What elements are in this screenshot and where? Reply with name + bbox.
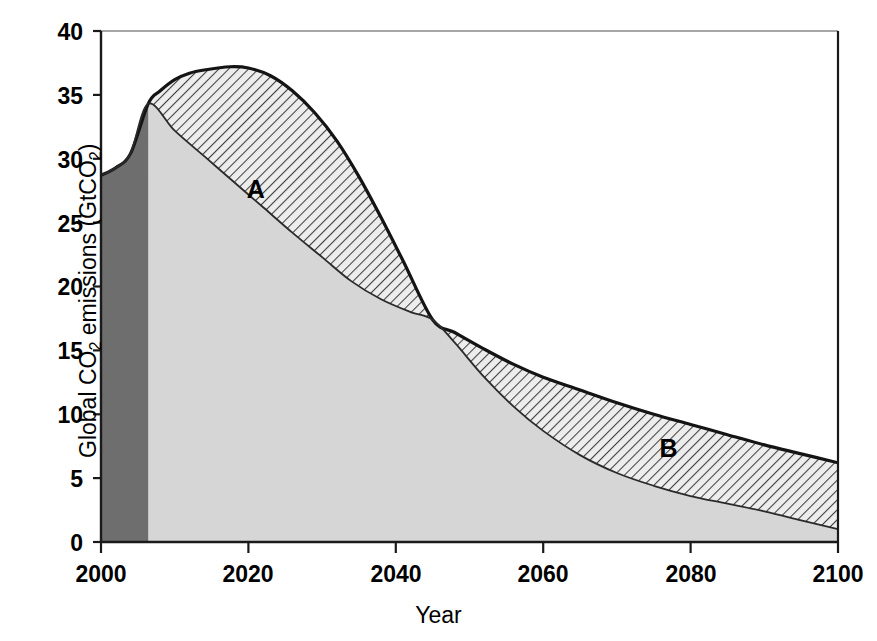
x-tick-label-2080: 2080 [656,561,726,588]
y-axis-title-sub-2: 2 [86,151,104,160]
y-axis-title: Global CO2 emissions (GtCO2) [75,91,105,511]
x-tick-label-2020: 2020 [213,561,283,588]
y-axis-title-pre: Global CO [75,351,101,458]
chart-figure: 40 35 30 25 20 15 10 5 0 2000 2020 2040 … [0,0,877,641]
x-tick-label-2100: 2100 [803,561,873,588]
x-axis-title: Year [0,602,877,629]
y-axis-title-mid: emissions (GtCO [75,160,101,341]
x-tick-label-2040: 2040 [361,561,431,588]
y-axis-title-sub-1: 2 [86,342,104,351]
x-axis-ticks [101,542,838,553]
region-label-b: B [659,434,677,463]
region-label-a: A [247,175,265,204]
x-tick-label-2060: 2060 [508,561,578,588]
y-axis-title-post: ) [75,144,101,152]
x-tick-label-2000: 2000 [66,561,136,588]
chart-canvas [0,0,877,641]
y-tick-label-40: 40 [37,19,83,46]
y-tick-label-0: 0 [37,530,83,557]
